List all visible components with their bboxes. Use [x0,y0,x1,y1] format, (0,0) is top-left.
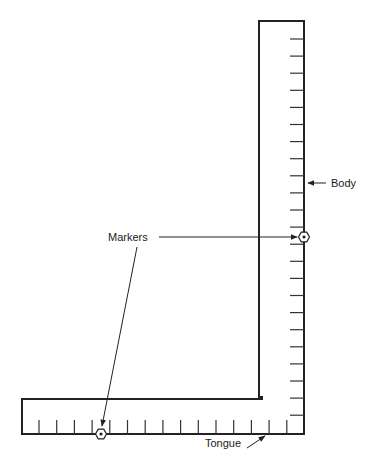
tongue-marker-icon [96,429,107,439]
framing-square-diagram: Body Markers Tongue [0,0,378,469]
square-outline [22,21,304,434]
tongue-ticks [39,420,287,434]
body-label: Body [331,177,357,189]
body-ticks [290,39,304,415]
body-marker-icon [299,232,310,242]
tongue-arrow-icon [247,436,265,448]
tongue-label: Tongue [205,437,241,449]
markers-label: Markers [108,231,148,243]
